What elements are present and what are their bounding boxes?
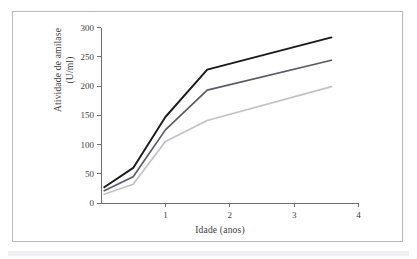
y-axis-label-line2: (U/ml) xyxy=(65,56,75,83)
y-tick-label: 200 xyxy=(81,81,95,91)
x-tick-label: 2 xyxy=(228,210,233,220)
series-line-linha-superior xyxy=(104,37,331,187)
x-axis-label: Idade (anos) xyxy=(140,225,300,235)
y-tick-label: 0 xyxy=(90,198,95,208)
y-tick-label: 150 xyxy=(81,110,95,120)
y-axis-label: Atividade de amilase(U/ml) xyxy=(52,0,76,140)
y-tick-label: 250 xyxy=(81,52,95,62)
y-tick-label: 50 xyxy=(85,169,95,179)
x-tick-label: 4 xyxy=(356,210,361,220)
series-line-linha-media xyxy=(104,60,331,190)
series-group xyxy=(104,37,331,194)
y-axis-label-line1: Atividade de amilase xyxy=(53,28,63,112)
tick-labels-group: 0501001502002503001234 xyxy=(81,23,362,220)
x-tick-label: 1 xyxy=(163,210,168,220)
x-tick-label: 3 xyxy=(292,210,297,220)
y-tick-label: 300 xyxy=(81,23,95,33)
y-tick-label: 100 xyxy=(81,140,95,150)
figure-container: 0501001502002503001234 Atividade de amil… xyxy=(0,0,417,259)
series-line-linha-inferior xyxy=(104,87,331,195)
